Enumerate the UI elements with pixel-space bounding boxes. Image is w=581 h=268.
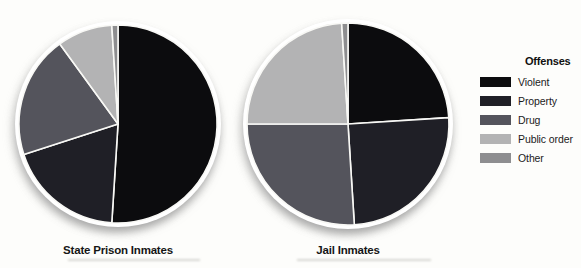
legend-label-property: Property [518,95,557,107]
legend-item-public-order: Public order [480,133,573,145]
legend: Offenses ViolentPropertyDrugPublic order… [480,55,573,171]
pie-jail [243,19,453,229]
legend-label-public-order: Public order [518,133,573,145]
caption-jail: Jail Inmates [243,244,453,261]
legend-swatch-violent [480,77,511,87]
legend-item-drug: Drug [480,114,573,126]
caption-state-prison: State Prison Inmates [15,244,221,261]
legend-item-property: Property [480,95,573,107]
legend-label-violent: Violent [518,76,549,88]
legend-swatch-public-order [480,134,511,144]
slice-violent [112,25,217,223]
legend-item-other: Other [480,152,573,164]
slice-property [348,118,449,225]
slice-drug [247,124,354,225]
legend-swatch-drug [480,115,511,125]
legend-label-drug: Drug [518,114,540,126]
pie-svg-jail [243,19,453,229]
figure-canvas: State Prison Inmates Jail Inmates Offens… [0,0,581,268]
legend-item-violent: Violent [480,76,573,88]
slice-public-order [247,23,348,124]
legend-swatch-property [480,96,511,106]
pie-state-prison [15,21,221,227]
legend-swatch-other [480,153,511,163]
pie-svg-state-prison [15,21,221,227]
slice-violent [348,23,449,124]
legend-title: Offenses [525,55,573,67]
legend-label-other: Other [518,152,544,164]
legend-items: ViolentPropertyDrugPublic orderOther [480,76,573,164]
